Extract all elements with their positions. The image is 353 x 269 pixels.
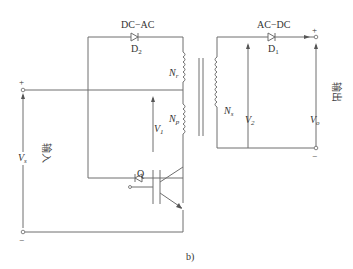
input-plus-label: +	[19, 77, 24, 87]
collector-diag	[160, 167, 183, 182]
v2-label: V2	[245, 114, 255, 127]
output-arrow-icon	[304, 35, 310, 39]
np-label: Np	[168, 113, 180, 126]
v1-arrow-head	[151, 96, 155, 102]
vo-label: Vo	[310, 114, 320, 127]
flyback-converter-diagram: DC−AC D2 AC−DC D1 Nr Np Ns V1 V2 Vs Vo Q…	[0, 0, 353, 269]
output-plus-terminal	[314, 35, 318, 39]
nr-label: Nr	[168, 67, 179, 80]
gate-terminal	[129, 186, 132, 189]
output-minus-label: −	[312, 151, 317, 161]
ns-label: Ns	[223, 105, 234, 118]
ac-dc-label: AC−DC	[257, 19, 291, 30]
emitter-arrow-icon	[176, 203, 182, 209]
d2-label: D2	[131, 43, 142, 56]
v2-arrow-head	[246, 43, 250, 49]
vo-arrow-head	[314, 43, 318, 49]
np-winding	[183, 104, 185, 134]
v1-label: V1	[154, 123, 164, 136]
output-minus-terminal	[314, 146, 318, 150]
nr-winding	[183, 52, 185, 82]
input-label: 输入	[41, 143, 53, 163]
output-label: 输出	[331, 82, 343, 102]
output-plus-label: +	[312, 25, 317, 35]
dc-ac-label: DC−AC	[121, 19, 155, 30]
diode-d1-icon	[268, 33, 275, 41]
diode-d2-icon	[131, 33, 138, 41]
panel-label: b)	[186, 251, 194, 263]
input-minus-terminal	[21, 230, 25, 234]
input-plus-terminal	[21, 88, 25, 92]
vs-arrow-head	[21, 93, 25, 99]
d1-label: D1	[268, 43, 279, 56]
ns-winding	[215, 57, 217, 107]
input-minus-label: −	[19, 235, 24, 245]
q-label: Q	[137, 168, 145, 179]
